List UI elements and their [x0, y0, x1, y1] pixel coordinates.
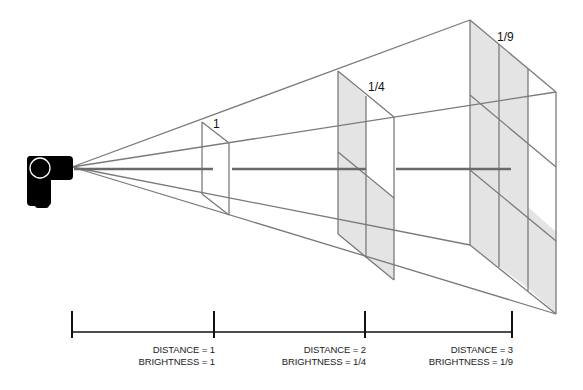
distance-axis	[72, 311, 512, 338]
flash-light-icon	[27, 156, 73, 208]
inverse-square-diagram	[0, 0, 583, 390]
panel-2-fill-lower-right	[366, 177, 394, 280]
distance-3-text: DISTANCE = 3	[429, 344, 513, 356]
panel-2-label: 1/4	[368, 80, 385, 94]
axis-tick-3-label: DISTANCE = 3 BRIGHTNESS = 1/9	[429, 344, 513, 368]
panel-2-fill-left	[338, 71, 366, 258]
panel-3-fill-lower-right	[528, 207, 556, 314]
brightness-2-text: BRIGHTNESS = 1/4	[282, 356, 366, 368]
distance-2-text: DISTANCE = 2	[282, 344, 366, 356]
axis-tick-1-label: DISTANCE = 1 BRIGHTNESS = 1	[139, 344, 215, 368]
panel-3-label: 1/9	[497, 30, 514, 44]
brightness-1-text: BRIGHTNESS = 1	[139, 356, 215, 368]
brightness-3-text: BRIGHTNESS = 1/9	[429, 356, 513, 368]
distance-1-text: DISTANCE = 1	[139, 344, 215, 356]
axis-tick-2-label: DISTANCE = 2 BRIGHTNESS = 1/4	[282, 344, 366, 368]
panel-1-label: 1	[213, 117, 220, 131]
